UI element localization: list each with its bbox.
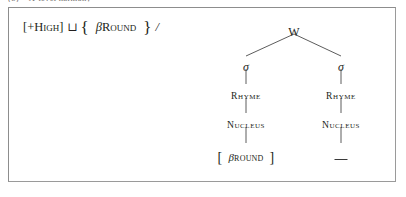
feature-bracket-open: [+ bbox=[23, 21, 34, 34]
rule-value-name: Round bbox=[102, 21, 136, 34]
blank-underscore-icon bbox=[335, 159, 348, 160]
tree-node-sigma-right: σ bbox=[338, 61, 344, 73]
tree-terminal-left: [βRound] bbox=[218, 150, 275, 164]
edge-root-sigma-right bbox=[294, 34, 341, 56]
tree-node-rhyme-right: Rhyme bbox=[326, 91, 356, 101]
feature-bracket-close: ] bbox=[59, 21, 63, 34]
terminal-label: Round bbox=[234, 151, 263, 163]
brace-close: } bbox=[143, 19, 151, 36]
terminal-bracket-open: [ bbox=[218, 150, 223, 165]
join-operator-icon: ⊔ bbox=[67, 21, 77, 33]
tree-node-nucleus-right: Nucleus bbox=[322, 120, 360, 130]
terminal-bracket-close: ] bbox=[270, 150, 275, 165]
edge-root-sigma-left bbox=[246, 34, 294, 56]
caption-text: A-level harmony bbox=[29, 0, 91, 2]
feature-name: High bbox=[34, 21, 59, 34]
brace-open: { bbox=[80, 19, 88, 36]
tree-node-rhyme-left: Rhyme bbox=[231, 91, 261, 101]
rule-expression: [+High] ⊔ { βRound } / bbox=[23, 19, 159, 36]
tree-node-sigma-left: σ bbox=[243, 61, 249, 73]
caption-number: (8) bbox=[8, 0, 19, 2]
environment-slash: / bbox=[155, 21, 158, 34]
figure-caption-sliver: (8)A-level harmony bbox=[8, 0, 198, 2]
tree-node-nucleus-left: Nucleus bbox=[227, 120, 265, 130]
tree-node-root-w: W bbox=[288, 26, 300, 38]
tree-terminal-right-blank bbox=[335, 153, 348, 164]
syllable-tree: W σ σ Rhyme Rhyme Nucleus Nucleus [βRoun… bbox=[189, 16, 389, 176]
figure-frame: [+High] ⊔ { βRound } / W σ σ Rhyme Rhyme… bbox=[8, 7, 396, 182]
